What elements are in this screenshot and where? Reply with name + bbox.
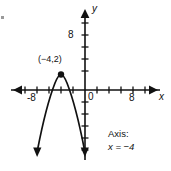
parabola-curve — [33, 71, 89, 157]
parabola-left-arrowhead — [33, 148, 41, 157]
axis-of-symmetry-note: Axis: x = −4 — [108, 128, 134, 152]
parabola-figure: (−4,2) -8 8 8 0 x y Axis: x = −4 — [0, 0, 171, 171]
y-axis-name-label: y — [92, 4, 97, 14]
vertex-marker-dot — [58, 71, 64, 77]
vertex-coordinate-label: (−4,2) — [38, 55, 62, 64]
parabola-right-arrowhead — [81, 148, 89, 157]
axis-note-title: Axis: — [108, 128, 134, 139]
y-tick-label-8: 8 — [68, 30, 74, 40]
y-axis-up-arrowhead — [81, 9, 90, 18]
x-tick-label-negative-8: -8 — [27, 93, 36, 103]
parabola-path — [38, 75, 85, 151]
x-axis-left-arrowhead — [13, 86, 22, 95]
axis-note-equation: x = −4 — [108, 141, 134, 152]
x-axis-right-arrowhead — [149, 86, 158, 95]
x-tick-label-positive-8: 8 — [129, 93, 135, 103]
origin-label: 0 — [88, 92, 94, 102]
coordinate-plane-graphic — [0, 0, 171, 171]
x-axis-name-label: x — [159, 92, 164, 102]
